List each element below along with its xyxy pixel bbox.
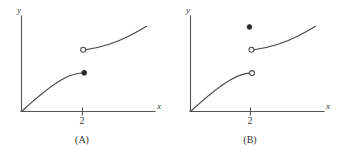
panel-caption-b: (B)	[230, 135, 270, 145]
open-point-a	[81, 47, 86, 52]
curve-left-branch-a	[22, 73, 84, 112]
panel-a: y x 2 (A)	[0, 0, 171, 157]
curve-right-branch-b	[254, 26, 316, 50]
panel-b: y x 2 (B)	[170, 0, 341, 157]
curve-left-branch-b	[191, 73, 251, 111]
closed-point-a	[82, 70, 87, 75]
x-tick-label-2-a: 2	[72, 117, 92, 127]
open-point-upper-b	[249, 47, 254, 52]
x-axis-label-a: x	[157, 102, 161, 111]
open-point-lower-b	[250, 71, 255, 76]
x-axis-label-b: x	[326, 102, 330, 111]
x-tick-label-2-b: 2	[240, 117, 260, 127]
y-axis-label-b: y	[186, 6, 190, 15]
isolated-closed-point-b	[247, 25, 252, 30]
panel-caption-a: (A)	[62, 135, 102, 145]
curve-right-branch-a	[86, 26, 147, 50]
figure-container: y x 2 (A) y x 2 (B)	[0, 0, 341, 157]
y-axis-label-a: y	[17, 6, 21, 15]
